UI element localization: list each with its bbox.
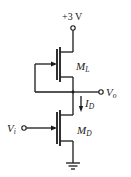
input-label: Vi: [7, 122, 16, 136]
circuit-schematic: +3 V ML Vo ID MD Vi: [0, 0, 131, 177]
current-label: ID: [84, 97, 95, 111]
transistor-md: [26, 110, 73, 146]
md-label: MD: [76, 124, 92, 138]
supply-label: +3 V: [62, 11, 83, 22]
input-terminal-icon: [22, 126, 26, 130]
current-arrow-icon: [79, 106, 83, 112]
output-terminal-icon: [99, 90, 103, 94]
output-label: Vo: [106, 86, 117, 100]
supply-terminal-icon: [71, 26, 75, 30]
ml-label: ML: [75, 60, 89, 74]
transistor-ml: [35, 47, 73, 92]
ground-icon: [66, 163, 80, 169]
